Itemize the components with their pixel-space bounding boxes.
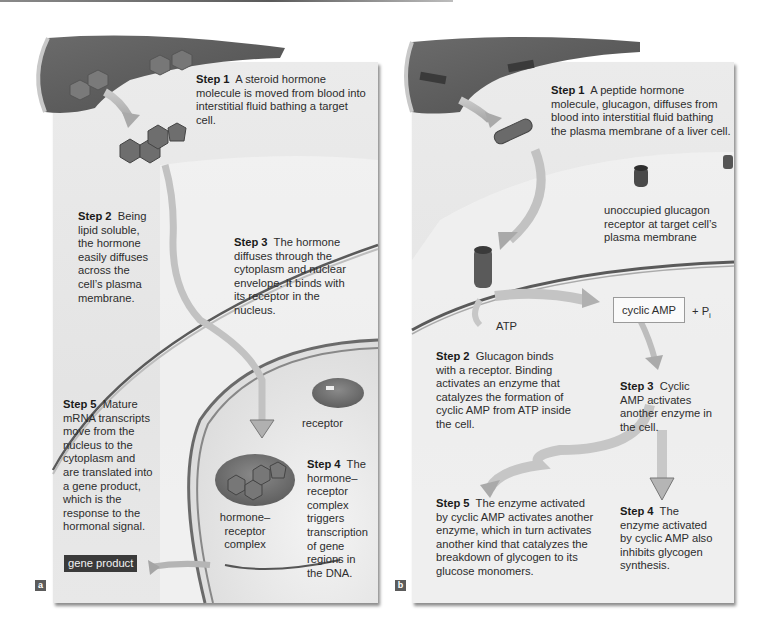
receptor-label: receptor [302, 417, 343, 431]
occupied-receptor-icon [474, 246, 492, 288]
receptor-small-icon [723, 155, 733, 169]
panel-label-b: b [395, 580, 406, 591]
arrow-step1-b [460, 100, 490, 120]
step4-a: Step 4 The hormone–receptor complex trig… [307, 458, 369, 580]
cyclic-amp-box: cyclic AMP [613, 297, 685, 323]
glucagon-icon [492, 117, 534, 146]
step5-b: Step 5 The enzyme activated by cyclic AM… [436, 497, 596, 579]
receptor-icon [312, 378, 364, 408]
step1-b: Step 1 A peptide hormone molecule, gluca… [551, 84, 731, 138]
step5-a: Step 5 Mature mRNA transcripts move from… [63, 398, 153, 534]
step2-b: Step 2 Glucagon binds with a receptor. B… [436, 350, 576, 432]
step1-a: Step 1 A steroid hormone molecule is mov… [196, 73, 366, 127]
step3-b: Step 3 Cyclic AMP activates another enzy… [620, 380, 715, 434]
hormone-receptor-complex-icon [215, 454, 295, 506]
pi-label: + Pi [692, 305, 711, 323]
panel-label-a: a [35, 580, 46, 591]
step2-a: Step 2 Being lipid soluble, the hormone … [78, 210, 150, 305]
atp-label: ATP [496, 320, 517, 334]
unoccupied-receptor-label: unoccupied glucagon receptor at target c… [604, 204, 719, 245]
step4-b: Step 4 The enzyme activated by cyclic AM… [620, 505, 715, 573]
step3-a: Step 3 The hormone diffuses through the … [234, 236, 354, 318]
steroid-hormone-icon [120, 123, 186, 163]
unoccupied-receptor-icon [634, 165, 648, 187]
complex-label: hormone–receptor complex [215, 511, 275, 552]
gene-product-label: gene product [64, 555, 137, 572]
